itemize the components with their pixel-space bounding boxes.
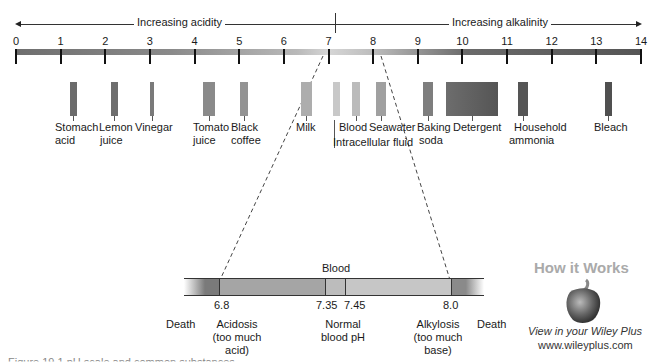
value-7-45: 7.45 [344, 299, 365, 312]
bar-stomach-acid [70, 82, 77, 116]
bar-vinegar [150, 82, 154, 116]
death-label-right: Death [477, 318, 506, 331]
bar-bleach [605, 82, 612, 116]
acidosis-label: Acidosis (too much acid) [212, 318, 262, 357]
label-black-coffee: Blackcoffee [231, 121, 261, 147]
alkylosis-label: Alkylosis (too much base) [410, 318, 466, 357]
divider-7-35 [325, 279, 326, 295]
label-household-ammonia: Householdammonia [509, 121, 567, 147]
blood-scale-title: Blood [322, 262, 350, 275]
divider-8-0 [451, 279, 452, 295]
bar-black-coffee [240, 82, 248, 116]
value-7-35: 7.35 [316, 299, 337, 312]
bar-blood [352, 82, 360, 116]
bar-seawater [376, 82, 386, 116]
label-intracellular-fluid: Intracellular fluid [333, 136, 413, 149]
alkylosis-zone [345, 279, 451, 295]
bar-baking-soda [423, 82, 433, 116]
divider-6-8 [219, 279, 220, 295]
label-milk: Milk [296, 121, 316, 134]
how-it-works-title: How it Works [534, 259, 629, 276]
label-seawater: Seawater [369, 121, 415, 134]
death-zone-left [184, 279, 219, 295]
bar-lemon-juice [111, 82, 118, 116]
divider-7-45 [345, 279, 346, 295]
label-bleach: Bleach [594, 121, 628, 134]
label-lemon-juice: Lemonjuice [99, 121, 133, 147]
bar-tomato-juice [203, 82, 215, 116]
label-tomato-juice: Tomatojuice [193, 121, 229, 147]
death-label-left: Death [166, 318, 195, 331]
label-stomach-acid: Stomachacid [55, 121, 98, 147]
label-vinegar: Vinegar [135, 121, 173, 134]
bar-intracellular-fluid [333, 82, 340, 116]
blood-ph-bar [184, 278, 484, 296]
label-blood: Blood [339, 121, 367, 134]
value-8-0: 8.0 [443, 299, 458, 312]
bar-household-ammonia [518, 82, 528, 116]
value-6-8: 6.8 [214, 299, 229, 312]
label-baking-soda: Bakingsoda [417, 121, 451, 147]
normal-label: Normal blood pH [316, 318, 370, 344]
death-zone-right [451, 279, 484, 295]
wiley-plus-subtitle: View in your Wiley Plus [528, 325, 642, 337]
wiley-plus-url[interactable]: www.wileyplus.com [538, 339, 633, 351]
acidosis-zone [219, 279, 325, 295]
pepper-icon [560, 278, 606, 324]
bar-detergent [446, 82, 498, 116]
label-detergent: Detergent [453, 121, 501, 134]
normal-zone [325, 279, 345, 295]
bar-milk [301, 82, 312, 116]
